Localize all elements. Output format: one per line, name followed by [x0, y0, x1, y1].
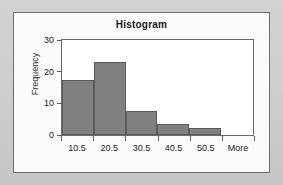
- x-tick-mark: [254, 136, 255, 141]
- x-tick-mark: [125, 136, 126, 141]
- bar-slot: [62, 40, 94, 135]
- x-tick-mark: [158, 136, 159, 141]
- slide-background: Histogram Frequency 30 20 10 0: [0, 0, 283, 185]
- x-axis-labels: 10.5 20.5 30.5 40.5 50.5 More: [61, 143, 254, 153]
- x-tick-label: 30.5: [125, 143, 157, 153]
- x-axis-ticks: [61, 136, 254, 141]
- x-tick-mark: [93, 136, 94, 141]
- bar-series: [62, 40, 253, 135]
- x-tick-label: 20.5: [93, 143, 125, 153]
- y-tick-label: 30: [44, 35, 54, 45]
- bar-slot: [94, 40, 126, 135]
- histogram-bar[interactable]: [62, 80, 94, 135]
- x-tick-label: More: [222, 143, 254, 153]
- y-tick-label: 20: [44, 67, 54, 77]
- histogram-bar[interactable]: [94, 62, 126, 135]
- y-tick-label: 10: [44, 98, 54, 108]
- x-tick-mark: [222, 136, 223, 141]
- bar-slot: [157, 40, 189, 135]
- chart-title: Histogram: [14, 19, 269, 30]
- histogram-bar[interactable]: [126, 111, 158, 135]
- y-tick-label: 0: [49, 130, 54, 140]
- x-tick-label: 40.5: [158, 143, 190, 153]
- x-tick-mark: [61, 136, 62, 141]
- plot-area: 30 20 10 0: [61, 39, 254, 136]
- x-tick-label: 10.5: [61, 143, 93, 153]
- histogram-bar[interactable]: [189, 128, 221, 135]
- bar-slot: [221, 40, 253, 135]
- bar-slot: [189, 40, 221, 135]
- x-tick-label: 50.5: [190, 143, 222, 153]
- chart-frame: Histogram Frequency 30 20 10 0: [13, 12, 270, 173]
- histogram-bar[interactable]: [157, 124, 189, 136]
- x-tick-mark: [190, 136, 191, 141]
- y-axis-title: Frequency: [30, 39, 40, 109]
- bar-slot: [126, 40, 158, 135]
